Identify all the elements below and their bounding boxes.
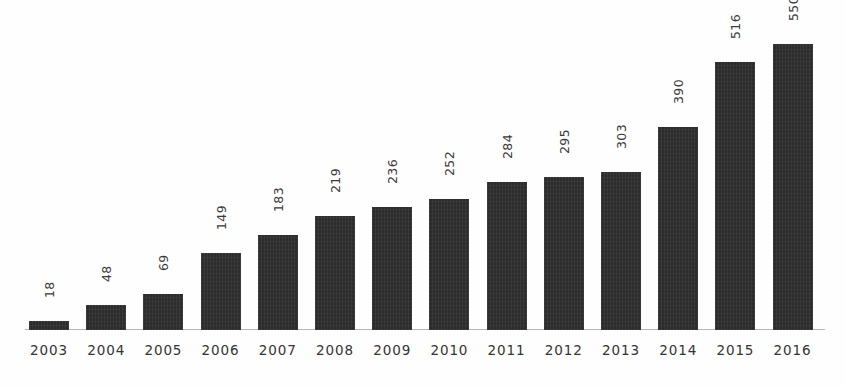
plot-area: 1820034820046920051492006183200721920082… [0,0,845,388]
bar [258,235,298,330]
bar-value-label: 69 [156,254,171,271]
x-axis-tick-label: 2016 [774,342,812,358]
x-axis-tick-label: 2005 [144,342,182,358]
bar [658,127,698,330]
bar [315,216,355,330]
bar-value-label: 149 [213,204,228,229]
bar-value-label: 295 [556,129,571,154]
bar [143,294,183,330]
x-axis-tick-label: 2011 [488,342,526,358]
bar [601,172,641,330]
bar-value-label: 284 [499,134,514,159]
x-axis-tick-label: 2012 [545,342,583,358]
bar [487,182,527,330]
bar-chart: 1820034820046920051492006183200721920082… [0,0,845,388]
bar-value-label: 303 [614,124,629,149]
x-axis-tick-label: 2003 [30,342,68,358]
bar [715,62,755,330]
bar [201,253,241,330]
x-axis-tick-label: 2004 [87,342,125,358]
bar-value-label: 183 [270,187,285,212]
x-axis-tick-label: 2010 [430,342,468,358]
bar [544,177,584,330]
bar-value-label: 252 [442,151,457,176]
bar-value-label: 18 [42,281,57,298]
bar-value-label: 516 [728,14,743,39]
x-axis-tick-label: 2014 [659,342,697,358]
bar [773,44,813,330]
x-axis-tick-label: 2007 [259,342,297,358]
bar [429,199,469,330]
x-axis-tick-label: 2008 [316,342,354,358]
bar-value-label: 219 [328,168,343,193]
bar [372,207,412,330]
x-axis-tick-label: 2015 [716,342,754,358]
x-axis-tick-label: 2006 [202,342,240,358]
bar-value-label: 236 [385,159,400,184]
bar [29,321,69,330]
x-axis-tick-label: 2009 [373,342,411,358]
x-axis-tick-label: 2013 [602,342,640,358]
bar-value-label: 48 [99,265,114,282]
bar-value-label: 550 [785,0,800,21]
bar-value-label: 390 [671,79,686,104]
bar [86,305,126,330]
